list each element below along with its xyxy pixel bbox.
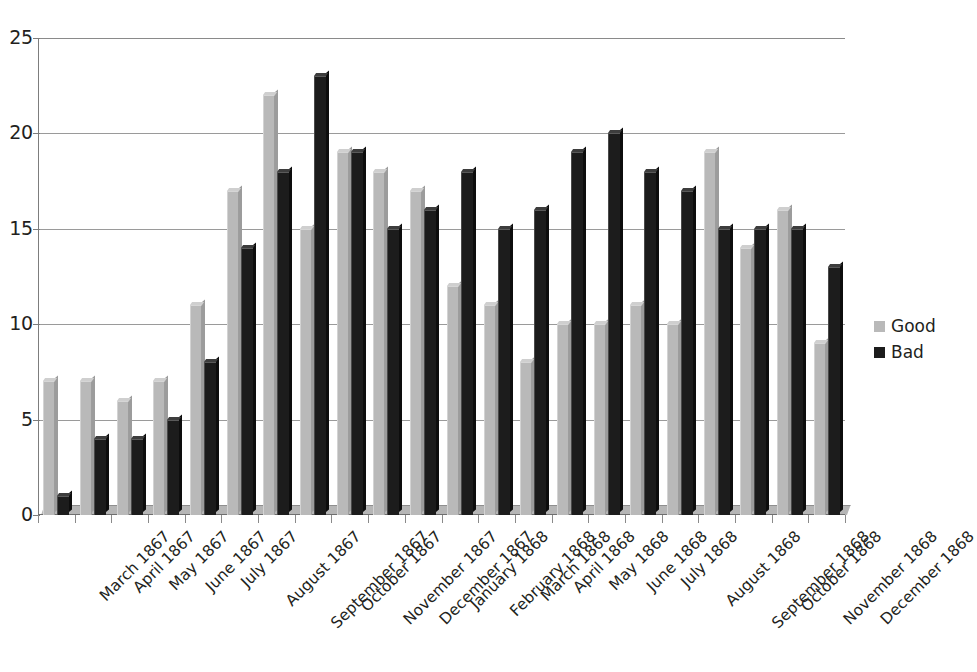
bar-face — [190, 305, 202, 515]
x-tick-mark — [735, 515, 736, 523]
bar-good-16[interactable] — [630, 305, 642, 515]
bar-bad-5[interactable] — [241, 248, 253, 515]
bar-face — [131, 439, 143, 515]
bar-bad-20[interactable] — [791, 229, 803, 515]
bar-face — [777, 210, 789, 515]
bar-good-13[interactable] — [520, 362, 532, 515]
bar-face — [57, 496, 69, 515]
bar-face — [80, 381, 92, 515]
bar-bad-7[interactable] — [314, 76, 326, 515]
bar-face — [814, 343, 826, 515]
bar-bad-11[interactable] — [461, 172, 473, 515]
bar-good-6[interactable] — [263, 95, 275, 515]
bar-bad-4[interactable] — [204, 362, 216, 515]
x-tick-mark — [698, 515, 699, 523]
bar-bad-10[interactable] — [424, 210, 436, 515]
bar-bad-16[interactable] — [644, 172, 656, 515]
bar-side-3d — [766, 223, 769, 512]
bar-good-9[interactable] — [373, 172, 385, 515]
legend: Good Bad — [874, 313, 964, 365]
bar-good-12[interactable] — [484, 305, 496, 515]
bar-face — [167, 420, 179, 515]
bar-side-3d — [436, 204, 439, 512]
bar-good-21[interactable] — [814, 343, 826, 515]
bar-bad-8[interactable] — [351, 152, 363, 515]
bar-side-3d — [583, 147, 586, 512]
bar-face — [314, 76, 326, 515]
bar-face — [94, 439, 106, 515]
bar-bad-12[interactable] — [498, 229, 510, 515]
bar-face — [387, 229, 399, 515]
bar-side-3d — [620, 128, 623, 512]
bar-bad-21[interactable] — [828, 267, 840, 515]
bar-good-2[interactable] — [117, 401, 129, 515]
bar-face — [337, 152, 349, 515]
bar-side-3d — [840, 261, 843, 512]
bar-good-17[interactable] — [667, 324, 679, 515]
bar-good-3[interactable] — [153, 381, 165, 515]
bar-bad-2[interactable] — [131, 439, 143, 515]
bar-side-3d — [363, 147, 366, 512]
bar-good-0[interactable] — [43, 381, 55, 515]
bar-bad-15[interactable] — [608, 133, 620, 515]
y-axis-ticks: 0510152025 — [0, 0, 33, 672]
bar-bad-0[interactable] — [57, 496, 69, 515]
x-tick-mark — [442, 515, 443, 523]
bar-face — [241, 248, 253, 515]
bar-good-7[interactable] — [300, 229, 312, 515]
y-tick-label-10: 10 — [7, 314, 33, 333]
bar-good-4[interactable] — [190, 305, 202, 515]
bar-face — [681, 191, 693, 515]
x-tick-mark — [515, 515, 516, 523]
bar-good-5[interactable] — [227, 191, 239, 515]
bar-face — [571, 152, 583, 515]
bar-good-14[interactable] — [557, 324, 569, 515]
bar-face — [484, 305, 496, 515]
bar-face — [828, 267, 840, 515]
legend-swatch-bad-icon — [874, 347, 885, 358]
x-tick-mark — [185, 515, 186, 523]
bar-good-18[interactable] — [704, 152, 716, 515]
bar-side-3d — [730, 223, 733, 512]
bar-bad-18[interactable] — [718, 229, 730, 515]
bar-bad-17[interactable] — [681, 191, 693, 515]
bar-good-15[interactable] — [594, 324, 606, 515]
bar-good-11[interactable] — [447, 286, 459, 515]
y-tick-label-5: 5 — [7, 410, 33, 429]
bar-good-1[interactable] — [80, 381, 92, 515]
bar-side-3d — [510, 223, 513, 512]
bar-side-3d — [656, 166, 659, 512]
x-tick-mark — [295, 515, 296, 523]
bar-face — [351, 152, 363, 515]
y-tick-label-20: 20 — [7, 123, 33, 142]
bar-good-19[interactable] — [740, 248, 752, 515]
bar-good-8[interactable] — [337, 152, 349, 515]
x-tick-mark — [845, 515, 846, 523]
y-tick-label-0: 0 — [7, 505, 33, 524]
bar-face — [410, 191, 422, 515]
bar-side-3d — [55, 376, 58, 512]
bar-side-3d — [106, 433, 109, 512]
bar-bad-6[interactable] — [277, 172, 289, 515]
bar-bad-13[interactable] — [534, 210, 546, 515]
x-tick-mark — [662, 515, 663, 523]
y-tick-label-25: 25 — [7, 28, 33, 47]
legend-item-good[interactable]: Good — [874, 313, 964, 339]
bar-side-3d — [179, 414, 182, 512]
legend-item-bad[interactable]: Bad — [874, 339, 964, 365]
legend-label-good: Good — [891, 318, 936, 335]
bar-side-3d — [253, 242, 256, 512]
bar-face — [718, 229, 730, 515]
x-tick-mark — [258, 515, 259, 523]
bar-good-20[interactable] — [777, 210, 789, 515]
bar-face — [520, 362, 532, 515]
bar-face — [461, 172, 473, 515]
bar-good-10[interactable] — [410, 191, 422, 515]
bar-bad-1[interactable] — [94, 439, 106, 515]
bar-bad-19[interactable] — [754, 229, 766, 515]
bar-bad-9[interactable] — [387, 229, 399, 515]
bar-face — [447, 286, 459, 515]
bar-bad-3[interactable] — [167, 420, 179, 515]
bar-bad-14[interactable] — [571, 152, 583, 515]
bar-face — [204, 362, 216, 515]
